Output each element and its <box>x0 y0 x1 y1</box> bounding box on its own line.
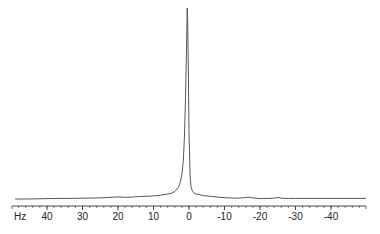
x-tick-label: -30 <box>288 211 303 222</box>
x-tick-label: 0 <box>186 211 192 222</box>
x-tick-label: -10 <box>217 211 232 222</box>
x-tick-label: 30 <box>77 211 89 222</box>
x-tick-label: 40 <box>41 211 53 222</box>
x-axis-ticks: 403020100-10-20-30-40 <box>12 206 366 222</box>
x-tick-label: -40 <box>324 211 339 222</box>
x-tick-label: -20 <box>253 211 268 222</box>
spectrum-trace <box>15 8 366 199</box>
trace-layer <box>15 8 366 199</box>
x-axis-unit-label: Hz <box>14 211 26 222</box>
x-tick-label: 20 <box>112 211 124 222</box>
nmr-spectrum-chart: 403020100-10-20-30-40 Hz <box>0 0 380 234</box>
x-tick-label: 10 <box>148 211 160 222</box>
